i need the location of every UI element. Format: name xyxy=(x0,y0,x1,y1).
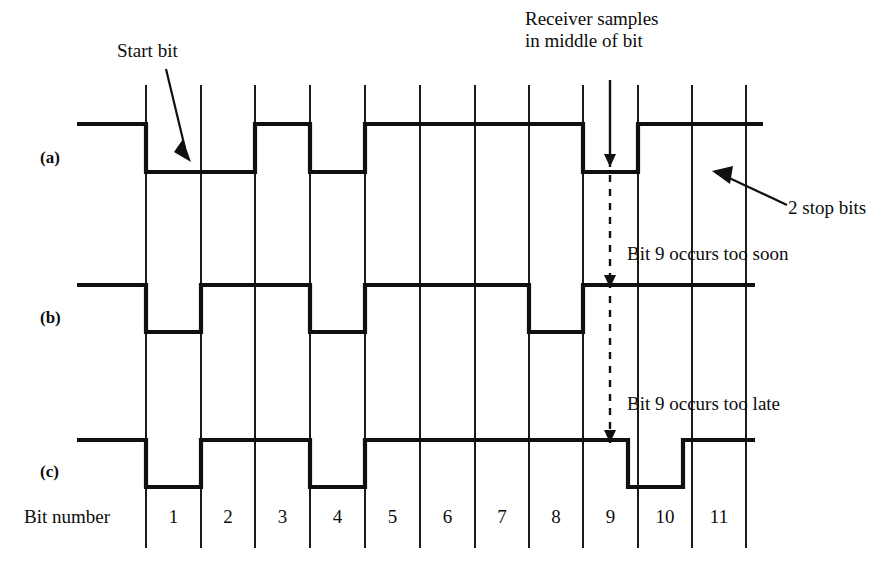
bit-number-7: 7 xyxy=(475,506,529,528)
bit-number-3: 3 xyxy=(255,506,310,528)
annotation-2-stop-bits: 2 stop bits xyxy=(788,197,866,219)
stop-bits-arrow-line xyxy=(725,176,787,205)
receiver-sample-marker xyxy=(604,80,616,443)
timing-diagram-canvas xyxy=(0,0,894,573)
bit-number-6: 6 xyxy=(420,506,475,528)
annotation-receiver-samples-line2: in middle of bit xyxy=(525,30,643,52)
annotation-leader-arrows xyxy=(166,69,787,205)
start-bit-arrow-line xyxy=(166,69,185,148)
bit-number-11: 11 xyxy=(692,506,746,528)
bit-number-axis-label: Bit number xyxy=(24,506,110,528)
annotation-start-bit: Start bit xyxy=(117,40,178,62)
waveform-b xyxy=(77,285,755,332)
annotation-receiver-samples-line1: Receiver samples xyxy=(525,8,658,30)
bit-number-8: 8 xyxy=(529,506,583,528)
annotation-bit9-too-late: Bit 9 occurs too late xyxy=(627,393,780,415)
stop-bits-arrow-head xyxy=(712,166,733,184)
uart-timing-diagram: (a) (b) (c) Start bit Receiver samples i… xyxy=(0,0,894,573)
bit-number-9: 9 xyxy=(583,506,638,528)
bit-number-4: 4 xyxy=(310,506,365,528)
start-bit-arrow-head xyxy=(174,139,191,162)
waveform-c xyxy=(77,440,755,487)
bit-number-10: 10 xyxy=(638,506,692,528)
waveform-label-b: (b) xyxy=(40,308,61,328)
bit-boundary-grid xyxy=(146,85,746,548)
bit-number-2: 2 xyxy=(201,506,255,528)
bit-number-5: 5 xyxy=(365,506,420,528)
annotation-bit9-too-soon: Bit 9 occurs too soon xyxy=(627,243,789,265)
sample-marker-arrow-head-a xyxy=(604,154,616,167)
bit-number-1: 1 xyxy=(146,506,201,528)
waveform-label-a: (a) xyxy=(40,148,60,168)
waveform-label-c: (c) xyxy=(40,462,59,482)
